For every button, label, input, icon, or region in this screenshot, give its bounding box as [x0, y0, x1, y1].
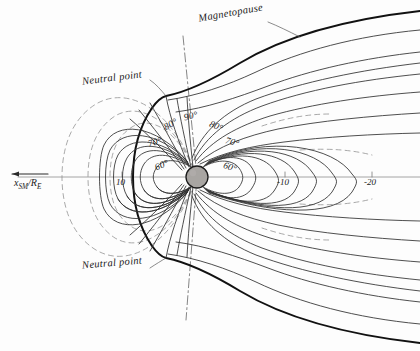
x-axis-label-denom-sub: E [37, 183, 41, 191]
magnetopause-leader [268, 22, 300, 37]
sunward-arrow [12, 171, 48, 176]
x-axis-label: xSM/RE [14, 178, 41, 191]
earth-dipole [186, 166, 208, 188]
x-tick-10: 10 [116, 178, 125, 187]
x-tick-minus20: -20 [364, 178, 376, 187]
neutral-point-leader-south [150, 258, 166, 268]
open-tail-lobe-lines-south [192, 190, 420, 291]
x-axis-label-denom: /R [28, 177, 37, 188]
x-axis [18, 172, 420, 177]
field-line-canvas [0, 0, 420, 351]
magnetosphere-figure: xSM/RE 10 -10 -20 60° 70° 80° 90° 80° 70… [0, 0, 420, 351]
x-axis-label-var-sub: SM [18, 183, 28, 191]
neutral-point-leader-north [150, 80, 166, 96]
x-tick-minus10: -10 [277, 178, 289, 187]
